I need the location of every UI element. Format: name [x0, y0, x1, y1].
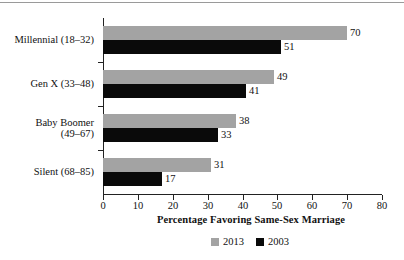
x-axis-tick-label: 30 [193, 200, 223, 212]
y-axis-tick [98, 106, 103, 107]
bar-value-label: 51 [284, 40, 295, 54]
bar-value-label: 70 [350, 26, 361, 40]
x-axis-tick-label: 60 [297, 200, 327, 212]
x-axis-tick-label: 10 [123, 200, 153, 212]
chart-figure: 01020304050607080 Millennial (18–32)Gen … [0, 0, 404, 260]
category-label: Silent (68–85) [0, 166, 94, 178]
x-axis-tick-label: 80 [367, 200, 397, 212]
top-divider-rule [0, 2, 404, 3]
x-axis-tick-label: 20 [158, 200, 188, 212]
legend-label: 2013 [223, 236, 244, 247]
y-axis-tick [98, 150, 103, 151]
bar-value-label: 38 [239, 114, 250, 128]
y-axis-tick [98, 62, 103, 63]
bar-2013 [103, 26, 347, 40]
legend-item-2003[interactable]: 2003 [256, 236, 289, 247]
category-label: Baby Boomer (49–67) [0, 117, 94, 140]
legend-swatch-icon [256, 238, 264, 246]
bar-2003 [103, 128, 218, 142]
category-label: Millennial (18–32) [0, 34, 94, 46]
bar-value-label: 33 [221, 128, 232, 142]
x-axis-tick-label: 40 [228, 200, 258, 212]
x-axis-tick-label: 50 [262, 200, 292, 212]
bar-2003 [103, 40, 281, 54]
chart-legend: 20132003 [0, 236, 404, 247]
bar-value-label: 17 [165, 172, 176, 186]
x-axis-title: Percentage Favoring Same-Sex Marriage [0, 214, 404, 225]
x-axis-tick-label: 70 [332, 200, 362, 212]
x-axis-tick-label: 0 [88, 200, 118, 212]
legend-item-2013[interactable]: 2013 [211, 236, 244, 247]
bar-value-label: 49 [277, 70, 288, 84]
legend-swatch-icon [211, 238, 219, 246]
bar-value-label: 31 [214, 158, 225, 172]
bar-value-label: 41 [249, 84, 260, 98]
legend-label: 2003 [268, 236, 289, 247]
category-label: Gen X (33–48) [0, 78, 94, 90]
bar-2003 [103, 84, 246, 98]
bar-2013 [103, 114, 236, 128]
bar-2013 [103, 70, 274, 84]
bar-2013 [103, 158, 211, 172]
bar-2003 [103, 172, 162, 186]
